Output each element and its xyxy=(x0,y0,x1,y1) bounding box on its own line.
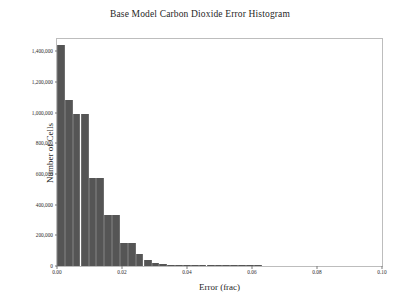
histogram-bars xyxy=(57,39,382,266)
histogram-bar xyxy=(136,254,144,266)
histogram-bar xyxy=(183,265,191,266)
histogram-bar xyxy=(246,265,254,266)
histogram-bar xyxy=(112,215,120,266)
x-tick-label: 0.00 xyxy=(52,269,61,275)
y-tick-label: 1,400,000 xyxy=(32,48,57,54)
histogram-bar xyxy=(167,265,175,266)
x-tick-label: 0.08 xyxy=(312,269,321,275)
plot-area: Number of Cells Error (frac) 0200,000400… xyxy=(56,38,383,267)
x-tick-mark xyxy=(57,266,58,269)
histogram-bar xyxy=(81,114,89,266)
histogram-bar xyxy=(254,265,262,266)
histogram-bar xyxy=(215,265,223,266)
histogram-bar xyxy=(104,215,112,266)
histogram-bar xyxy=(175,265,183,266)
x-tick-mark xyxy=(187,266,188,269)
x-tick-label: 0.10 xyxy=(377,269,386,275)
x-axis-label: Error (frac) xyxy=(57,282,382,292)
y-tick-label: 1,000,000 xyxy=(32,110,57,116)
chart-title: Base Model Carbon Dioxide Error Histogra… xyxy=(0,9,400,19)
y-tick-label: 1,200,000 xyxy=(32,79,57,85)
x-tick-mark xyxy=(317,266,318,269)
histogram-bar xyxy=(152,263,160,266)
histogram-bar xyxy=(65,100,73,266)
x-tick-label: 0.02 xyxy=(117,269,126,275)
histogram-bar xyxy=(191,265,199,266)
x-tick-mark xyxy=(122,266,123,269)
histogram-bar xyxy=(73,114,81,266)
histogram-bar xyxy=(96,178,104,266)
x-tick-mark xyxy=(382,266,383,269)
x-tick-label: 0.06 xyxy=(247,269,256,275)
histogram-bar xyxy=(238,265,246,266)
histogram-bar xyxy=(222,265,230,266)
histogram-bar xyxy=(144,260,152,266)
histogram-figure: Base Model Carbon Dioxide Error Histogra… xyxy=(0,0,400,308)
histogram-bar xyxy=(230,265,238,266)
x-tick-mark xyxy=(252,266,253,269)
histogram-bar xyxy=(128,243,136,266)
histogram-bar xyxy=(89,178,97,266)
histogram-bar xyxy=(207,265,215,266)
x-tick-label: 0.04 xyxy=(182,269,191,275)
histogram-bar xyxy=(159,264,167,266)
histogram-bar xyxy=(57,45,65,266)
histogram-bar xyxy=(199,265,207,266)
histogram-bar xyxy=(120,243,128,266)
